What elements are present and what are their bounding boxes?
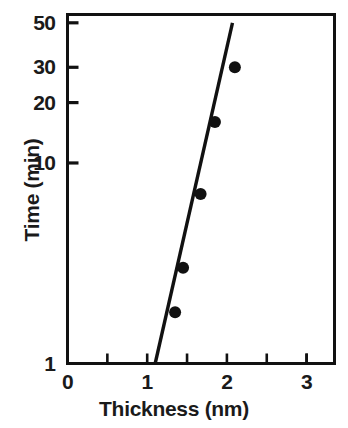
fit-line [155,23,232,364]
x-tick-label: 3 [287,371,327,392]
data-points [169,61,241,318]
y-tick-label: 10 [0,152,56,173]
y-tick-label: 30 [0,56,56,77]
y-axis-ticks [68,23,79,163]
y-tick-label: 50 [0,12,56,33]
chart-figure: 50 30 20 10 1 0 1 2 3 Thickness (nm) Tim… [0,0,348,428]
x-axis-title: Thickness (nm) [0,398,348,419]
x-tick-label: 0 [48,371,88,392]
x-tick-label: 2 [207,371,247,392]
fit-line-group [155,23,232,364]
y-tick-label: 20 [0,92,56,113]
x-tick-label: 1 [127,371,167,392]
